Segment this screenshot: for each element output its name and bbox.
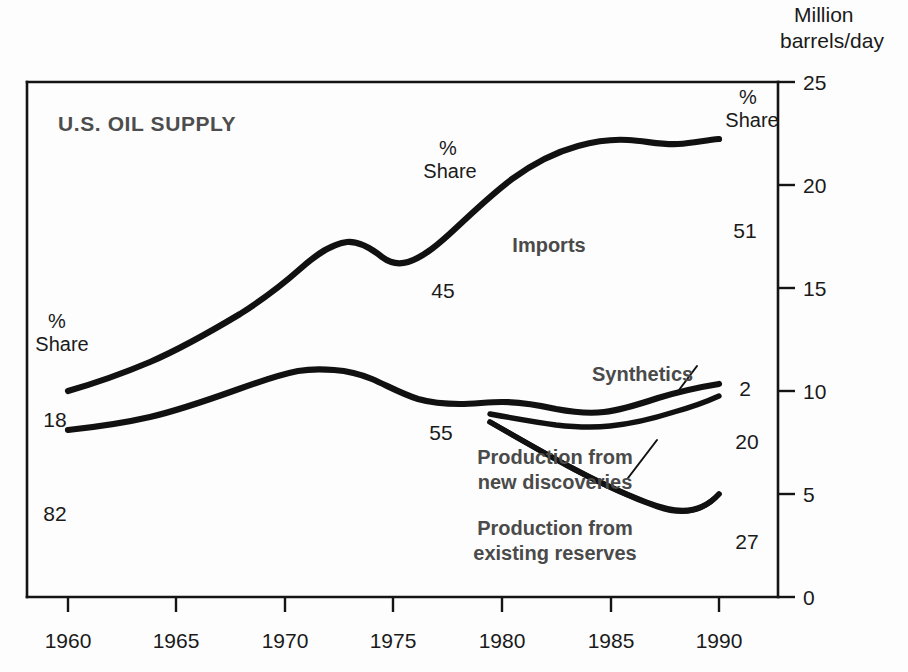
x-axis-ticks	[68, 597, 719, 612]
y-axis-ticks	[778, 82, 795, 597]
page-title: U.S. OIL SUPPLY	[58, 112, 236, 135]
share-mid-word: Share	[423, 160, 476, 182]
share-mid-value-45: 45	[431, 279, 454, 302]
share-mid-value-55: 55	[429, 421, 452, 444]
x-tick-label-1970: 1970	[262, 629, 309, 652]
y-tick-label-5: 5	[803, 483, 815, 506]
series-label-existing-reserves-line2: existing reserves	[473, 542, 636, 564]
x-tick-label-1975: 1975	[370, 629, 417, 652]
us-oil-supply-chart: 25 20 15 10 5 0 1960 1965 1970 1975 1980…	[0, 0, 908, 672]
share-right-value-27: 27	[735, 530, 758, 553]
share-right-word: Share	[725, 109, 778, 131]
series-label-existing-reserves-line1: Production from	[477, 517, 633, 539]
y-tick-label-20: 20	[803, 174, 826, 197]
share-right-percent: %	[739, 86, 757, 108]
y-tick-label-0: 0	[803, 586, 815, 609]
y-axis-tick-labels: 25 20 15 10 5 0	[803, 71, 826, 609]
series-label-new-discoveries-line1: Production from	[477, 446, 633, 468]
series-label-new-discoveries-line2: new discoveries	[478, 471, 633, 493]
x-tick-label-1980: 1980	[479, 629, 526, 652]
share-right-value-20: 20	[735, 430, 758, 453]
share-left-word: Share	[35, 333, 88, 355]
right-axis-title: Million barrels/day	[780, 3, 884, 52]
share-left-value-82: 82	[43, 502, 66, 525]
y-tick-label-15: 15	[803, 277, 826, 300]
figure-canvas: 25 20 15 10 5 0 1960 1965 1970 1975 1980…	[0, 0, 908, 672]
share-block-middle: % Share 45 55	[423, 137, 476, 444]
right-axis-title-line2: barrels/day	[780, 29, 884, 52]
series-total-supply-line	[68, 139, 719, 391]
x-axis-tick-labels: 1960 1965 1970 1975 1980 1985 1990	[45, 629, 743, 652]
y-tick-label-25: 25	[803, 71, 826, 94]
share-right-value-2: 2	[739, 377, 751, 400]
plot-frame	[27, 82, 778, 597]
share-block-left: % Share 18 82	[35, 310, 88, 525]
share-block-right: % Share 51 2 20 27	[725, 86, 778, 553]
series-label-imports: Imports	[512, 234, 585, 256]
y-tick-label-10: 10	[803, 380, 826, 403]
x-tick-label-1965: 1965	[153, 629, 200, 652]
share-left-percent: %	[48, 310, 66, 332]
x-tick-label-1985: 1985	[588, 629, 635, 652]
right-axis-title-line1: Million	[794, 3, 854, 26]
x-tick-label-1960: 1960	[45, 629, 92, 652]
series-label-synthetics: Synthetics	[592, 363, 693, 385]
share-right-value-51: 51	[733, 219, 756, 242]
share-left-value-18: 18	[43, 408, 66, 431]
x-tick-label-1990: 1990	[696, 629, 743, 652]
share-mid-percent: %	[439, 137, 457, 159]
